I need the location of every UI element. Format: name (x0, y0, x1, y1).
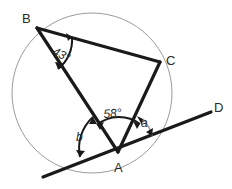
vertex-label-C: C (166, 54, 175, 67)
angle-label-BAC: 58° (103, 107, 122, 120)
angle-label-a: a (141, 117, 148, 129)
angle-label-b: b (76, 131, 83, 143)
angle-label-BAC-unit: ° (116, 106, 122, 120)
vertex-label-D: D (214, 101, 223, 114)
vertex-label-B: B (22, 12, 31, 25)
circumcircle (12, 13, 172, 173)
geometry-figure: B C A D 43° 58° a b (0, 0, 232, 189)
vertex-label-A: A (114, 161, 123, 174)
tangent-line-AD (43, 112, 211, 177)
angle-arc-b-arrowhead-end (76, 150, 85, 157)
